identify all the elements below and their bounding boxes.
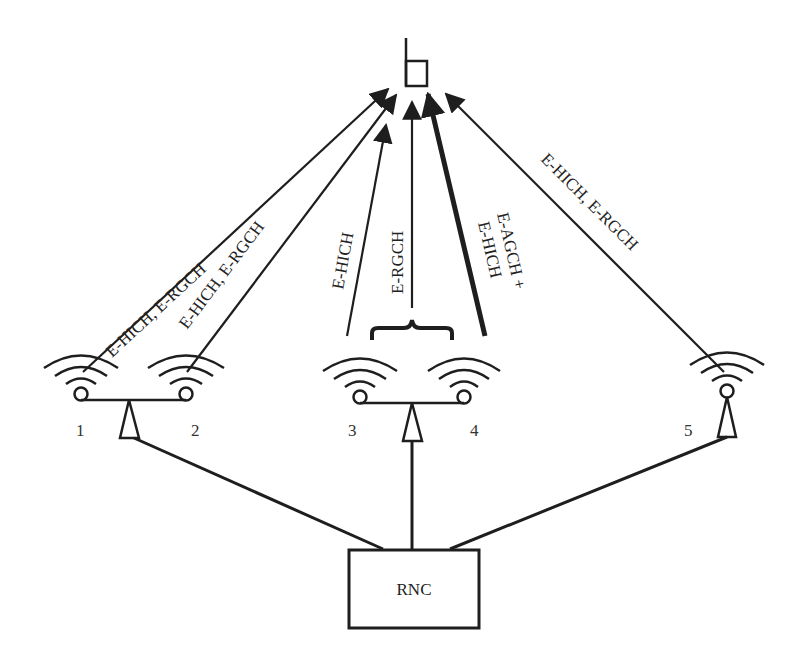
node-b-3-4 xyxy=(360,403,464,441)
iub-links xyxy=(134,437,727,549)
base-station-2 xyxy=(148,356,224,401)
radio-waves-icon xyxy=(44,356,118,385)
node-b-1-2 xyxy=(81,400,186,438)
rnc-node: RNC xyxy=(349,550,479,628)
link-bs2 xyxy=(187,95,396,372)
bs-label-1: 1 xyxy=(76,421,85,440)
bs-label-3: 3 xyxy=(348,421,357,440)
antenna-icon xyxy=(180,388,193,401)
base-station-3 xyxy=(323,359,397,404)
antenna-icon xyxy=(75,388,88,401)
diagram-canvas: E-HICH, E-RGCH E-HICH, E-RGCH E-HICH E-R… xyxy=(0,0,806,660)
mobile-phone-icon xyxy=(406,38,427,86)
tower-icon xyxy=(718,397,736,437)
antenna-icon xyxy=(721,385,734,398)
bs-label-4: 4 xyxy=(470,421,479,440)
base-station-5 xyxy=(690,353,764,438)
base-station-4 xyxy=(428,359,500,404)
radio-waves-icon xyxy=(690,353,764,382)
radio-waves-icon xyxy=(428,359,500,388)
bs-label-2: 2 xyxy=(191,421,200,440)
rnc-label: RNC xyxy=(397,580,432,599)
bs-label-5: 5 xyxy=(684,421,693,440)
link-bs3 xyxy=(347,125,386,336)
base-station-1 xyxy=(44,356,118,401)
radio-waves-icon xyxy=(148,356,224,385)
radio-waves-icon xyxy=(323,359,397,388)
antenna-icon xyxy=(458,391,471,404)
link-bs4-serving xyxy=(428,94,485,336)
antenna-icon xyxy=(354,391,367,404)
combining-brace xyxy=(372,320,452,340)
link-label-combined: E-RGCH xyxy=(388,231,407,294)
link-label-bs3: E-HICH xyxy=(328,231,357,291)
tower-icon xyxy=(403,403,422,441)
tower-icon xyxy=(120,400,139,438)
